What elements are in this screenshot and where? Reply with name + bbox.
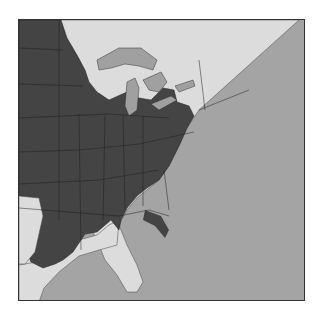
- map-frame: [18, 19, 305, 301]
- range-map: [19, 20, 305, 301]
- lake-michigan: [125, 78, 139, 116]
